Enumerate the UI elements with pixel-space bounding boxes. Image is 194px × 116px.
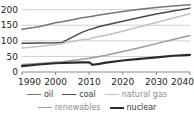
line-chart: 050100150200 199020002010202020302040 oi… [0, 0, 194, 116]
legend-item-coal[interactable]: coal [62, 90, 95, 99]
gridlines [22, 10, 190, 57]
series-lines [22, 5, 190, 66]
legend-label-renewables: renewables [55, 103, 101, 112]
x-axis-tick-labels: 199020002010202020302040 [18, 77, 194, 87]
legend-item-natural-gas[interactable]: natural gas [105, 90, 167, 99]
chart-legend: oilcoalnatural gas renewablesnuclear [0, 88, 194, 116]
legend-item-renewables[interactable]: renewables [38, 103, 101, 112]
legend-row-secondary: renewablesnuclear [0, 101, 194, 114]
x-tick-label-2000: 2000 [44, 77, 67, 87]
legend-swatch-oil-icon [27, 94, 41, 95]
y-tick-label-100: 100 [1, 36, 18, 46]
legend-row-primary: oilcoalnatural gas [0, 88, 194, 101]
x-tick-label-2020: 2020 [111, 77, 134, 87]
legend-label-coal: coal [79, 90, 95, 99]
legend-swatch-coal-icon [62, 94, 76, 95]
y-tick-label-0: 0 [12, 67, 18, 77]
y-tick-label-50: 50 [7, 52, 19, 62]
chart-plot-area: 050100150200 199020002010202020302040 [0, 0, 194, 90]
legend-item-nuclear[interactable]: nuclear [110, 103, 157, 112]
legend-swatch-nuclear-icon [110, 107, 124, 109]
legend-label-nuclear: nuclear [127, 103, 157, 112]
x-tick-label-1990: 1990 [18, 77, 41, 87]
y-tick-label-200: 200 [1, 5, 18, 15]
x-tick-label-2040: 2040 [171, 77, 194, 87]
series-line-renewables [22, 36, 190, 65]
x-tick-label-2010: 2010 [78, 77, 101, 87]
legend-swatch-renewables-icon [38, 107, 52, 108]
legend-label-natural-gas: natural gas [122, 90, 167, 99]
legend-swatch-natural-gas-icon [105, 94, 119, 95]
y-axis-tick-labels: 050100150200 [1, 5, 18, 77]
y-tick-label-150: 150 [1, 20, 18, 30]
x-tick-label-2030: 2030 [145, 77, 168, 87]
legend-label-oil: oil [44, 90, 53, 99]
legend-item-oil[interactable]: oil [27, 90, 53, 99]
chart-axes [22, 72, 190, 75]
